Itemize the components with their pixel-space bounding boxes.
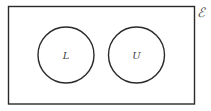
venn-diagram: ℰ L U bbox=[0, 0, 211, 111]
set-label-u: U bbox=[132, 50, 141, 61]
universal-set-rectangle bbox=[9, 7, 195, 105]
universal-set-label: ℰ bbox=[197, 5, 206, 20]
set-label-l: L bbox=[62, 50, 70, 61]
